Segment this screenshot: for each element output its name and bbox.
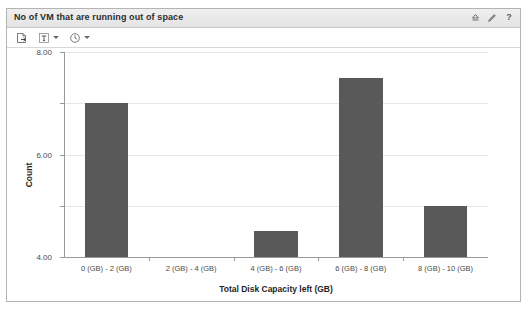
x-axis-tick (149, 257, 150, 261)
y-axis-tick: 0.00 (60, 257, 64, 258)
chevron-down-icon (53, 36, 59, 39)
chart-area: Count 0.002.004.006.008.00 0 (GB) - 2 (G… (7, 48, 520, 301)
x-axis-tick (234, 257, 235, 261)
clock-icon (68, 31, 81, 44)
y-axis-tick: 8.00 (60, 52, 64, 53)
plot-area: 0.002.004.006.008.00 (64, 52, 488, 257)
x-axis-tick-label: 2 (GB) - 4 (GB) (149, 264, 234, 273)
gridline (65, 103, 488, 104)
gridline (65, 52, 488, 53)
bar[interactable] (424, 206, 468, 257)
y-axis-tick-label: 4.00 (36, 253, 52, 262)
help-icon[interactable]: ? (504, 11, 514, 24)
gridline (65, 155, 488, 156)
x-axis-line (64, 257, 488, 258)
panel-title: No of VM that are running out of space (14, 12, 183, 22)
y-axis-title: Count (24, 162, 34, 187)
chart-panel: No of VM that are running out of space ? (6, 8, 521, 302)
y-axis-tick: 6.00 (60, 103, 64, 104)
bar[interactable] (339, 78, 383, 257)
panel-header-actions: ? (470, 11, 514, 24)
time-range-dropdown[interactable] (68, 31, 90, 44)
export-icon (15, 31, 28, 44)
bar[interactable] (85, 103, 129, 257)
panel-header: No of VM that are running out of space ? (7, 9, 520, 28)
collapse-icon[interactable] (470, 11, 480, 24)
x-axis-tick (403, 257, 404, 261)
edit-pencil-icon[interactable] (487, 11, 497, 24)
text-format-icon (37, 31, 50, 44)
chevron-down-icon (84, 36, 90, 39)
x-axis-tick-label: 4 (GB) - 6 (GB) (234, 264, 319, 273)
y-axis-tick-label: 6.00 (36, 150, 52, 159)
bar[interactable] (254, 231, 298, 257)
x-axis-tick-label: 6 (GB) - 8 (GB) (318, 264, 403, 273)
x-axis-title: Total Disk Capacity left (GB) (64, 284, 488, 294)
export-button[interactable] (15, 31, 28, 44)
x-axis-tick-label: 0 (GB) - 2 (GB) (64, 264, 149, 273)
y-axis-tick-label: 8.00 (36, 48, 52, 57)
y-axis-tick: 4.00 (60, 155, 64, 156)
text-format-dropdown[interactable] (37, 31, 59, 44)
x-axis-tick-label: 8 (GB) - 10 (GB) (403, 264, 488, 273)
panel-toolbar (7, 28, 520, 48)
x-axis-tick (318, 257, 319, 261)
y-axis-tick: 2.00 (60, 206, 64, 207)
